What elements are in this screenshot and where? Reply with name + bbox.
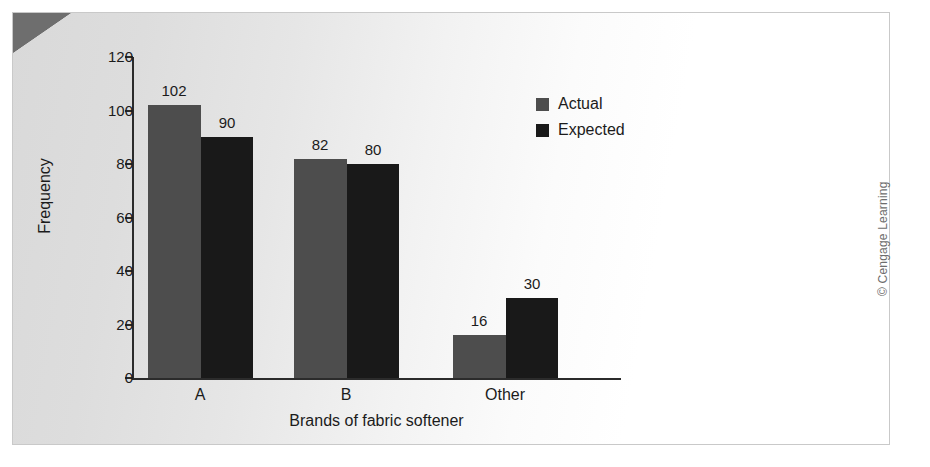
bar-Other-actual[interactable]: [453, 335, 506, 378]
legend-entry-actual[interactable]: Actual: [536, 91, 716, 117]
x-axis-title: Brands of fabric softener: [132, 413, 621, 429]
x-axis-line: [132, 378, 621, 380]
category-label-other: Other: [445, 387, 565, 403]
bar-Other-expected[interactable]: [506, 298, 558, 378]
bar-A-expected[interactable]: [201, 137, 253, 378]
copyright-credit: © Cengage Learning: [876, 146, 890, 296]
bar-value-Other-actual: 16: [449, 313, 509, 328]
bar-A-actual[interactable]: [148, 105, 201, 378]
legend-entry-expected[interactable]: Expected: [536, 117, 716, 143]
chart-figure: 0 20 40 60 80 100 120: [12, 12, 890, 445]
legend-label-expected: Expected: [558, 122, 625, 138]
legend-label-actual: Actual: [558, 96, 602, 112]
bar-value-B-actual: 82: [290, 137, 350, 152]
bar-B-expected[interactable]: [347, 164, 399, 378]
plot-area: 0 20 40 60 80 100 120: [13, 13, 890, 445]
chart-legend: Actual Expected: [536, 91, 716, 143]
bar-value-B-expected: 80: [343, 142, 403, 157]
y-axis-title: Frequency: [37, 126, 53, 266]
category-label-b: B: [286, 387, 406, 403]
legend-swatch-icon-expected: [536, 124, 549, 137]
legend-swatch-icon-actual: [536, 98, 549, 111]
bar-B-actual[interactable]: [294, 159, 347, 378]
bar-value-Other-expected: 30: [502, 276, 562, 291]
category-label-a: A: [140, 387, 260, 403]
bar-value-A-expected: 90: [197, 115, 257, 130]
bar-value-A-actual: 102: [144, 83, 204, 98]
